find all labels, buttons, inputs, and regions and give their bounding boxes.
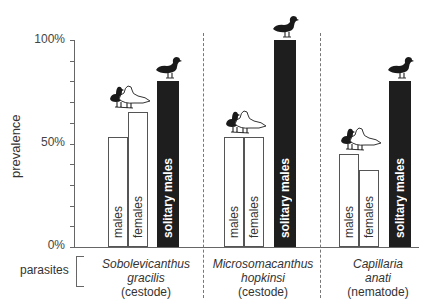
y-tick-mark <box>70 164 75 165</box>
y-tick-mark <box>70 40 75 41</box>
bar-males: males <box>108 137 128 247</box>
bar-solitary-males: solitary males <box>157 81 179 247</box>
y-tick-mark <box>70 144 75 145</box>
y-tick-50: 50% <box>25 135 65 149</box>
group-divider <box>203 33 204 298</box>
bar-label: males <box>342 206 356 238</box>
bar-solitary-males: solitary males <box>274 40 296 247</box>
y-tick-mark <box>70 247 75 248</box>
bar-females: females <box>244 137 264 247</box>
y-tick-mark <box>70 226 75 227</box>
bar-label: males <box>111 206 125 238</box>
group-divider <box>320 33 321 298</box>
bar-label: females <box>247 196 261 238</box>
bar-solitary-males: solitary males <box>389 81 411 247</box>
x-axis-line <box>219 247 419 248</box>
duck-pair-icon <box>224 107 268 139</box>
bar-label: females <box>131 196 145 238</box>
bar-label: males <box>227 206 241 238</box>
bar-label: solitary males <box>278 158 292 238</box>
parasite-label-2: Microsomacanthushopkinsi(cestode) <box>206 257 320 299</box>
y-tick-mark <box>70 185 75 186</box>
y-tick-mark <box>70 61 75 62</box>
y-axis-label: prevalence <box>8 114 23 178</box>
parasite-label-3: Capillariaanati(nematode) <box>322 257 434 299</box>
x-axis-line <box>74 247 219 248</box>
bar-males: males <box>339 154 359 247</box>
bar-females: females <box>128 112 148 247</box>
bar-males: males <box>224 137 244 247</box>
y-tick-mark <box>70 102 75 103</box>
y-tick-mark <box>70 206 75 207</box>
y-tick-mark <box>70 81 75 82</box>
chart: 100% 50% 0% prevalence malesfemalessolit… <box>0 0 434 307</box>
y-tick-0: 0% <box>25 238 65 252</box>
bar-label: females <box>362 196 376 238</box>
parasite-label-1: Sobolevicanthusgracilis(cestode) <box>90 257 202 299</box>
duck-pair-icon <box>339 124 383 156</box>
solitary-duck-icon <box>385 55 415 85</box>
duck-pair-icon <box>108 82 152 114</box>
parasites-label: parasites <box>20 263 69 277</box>
bar-label: solitary males <box>393 158 407 238</box>
bar-females: females <box>359 170 379 247</box>
solitary-duck-icon <box>153 55 183 85</box>
bar-label: solitary males <box>161 158 175 238</box>
solitary-duck-icon <box>270 14 300 44</box>
y-tick-100: 100% <box>25 32 65 46</box>
y-tick-mark <box>70 123 75 124</box>
parasites-bracket <box>76 256 84 287</box>
